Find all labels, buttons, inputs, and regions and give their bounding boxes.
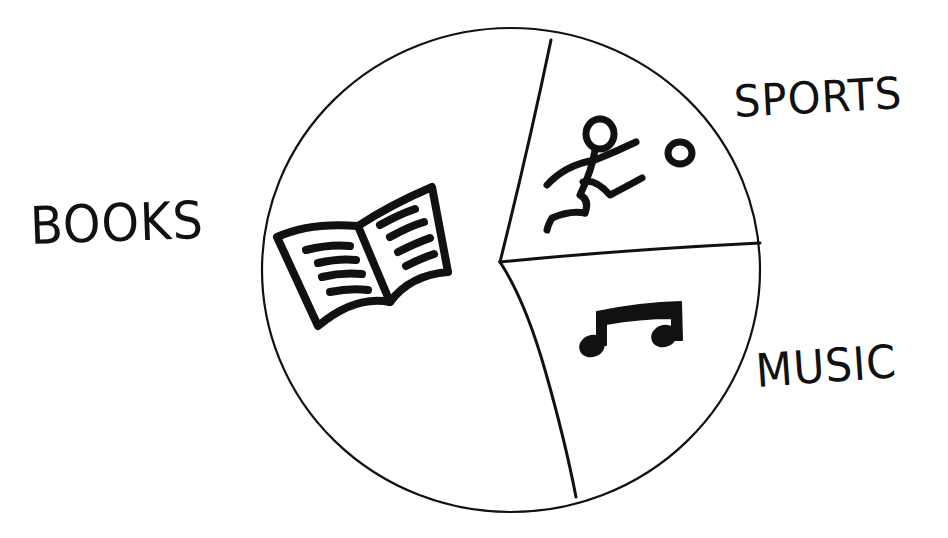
- pie-outline: [262, 28, 760, 512]
- slice-label-sports: SPORTS: [733, 67, 904, 127]
- slice-label-music: MUSIC: [754, 334, 898, 398]
- slice-label-books: BOOKS: [29, 190, 205, 256]
